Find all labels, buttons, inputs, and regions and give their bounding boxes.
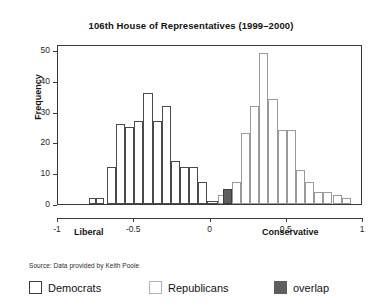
histogram-bar-republicans [333, 195, 342, 204]
histogram-bar-democrats [180, 167, 189, 204]
y-tick-label: 50 [41, 45, 50, 55]
legend-label-republicans: Republicans [168, 282, 229, 294]
legend-item-democrats: Democrats [29, 281, 101, 294]
x-tick-mark [133, 218, 134, 222]
bars-layer [58, 46, 361, 204]
histogram-bar-democrats [143, 93, 152, 204]
y-tick-label: 20 [41, 137, 50, 147]
histogram-bar-democrats [107, 167, 116, 204]
y-tick: 10 [0, 174, 57, 175]
histogram-bar-democrats [198, 182, 207, 204]
y-tick: 20 [0, 143, 57, 144]
x-tick-label: -1 [43, 224, 71, 234]
histogram-bar-democrats [189, 167, 198, 204]
axis-label-conservative: Conservative [262, 227, 319, 237]
plot-area [57, 45, 362, 205]
y-tick: 50 [0, 51, 57, 52]
legend-label-overlap: overlap [293, 282, 329, 294]
histogram-bar-republicans [314, 192, 323, 204]
y-tick-mark [53, 205, 57, 206]
histogram-bar-democrats [162, 106, 171, 204]
y-tick-label: 0 [45, 199, 50, 209]
x-tick-label: 1 [348, 224, 376, 234]
histogram-bar-democrats [171, 161, 180, 204]
x-tick-label: -0.5 [119, 224, 147, 234]
x-tick-mark [286, 218, 287, 222]
histogram-bar-republicans [232, 182, 241, 204]
histogram-bar-republicans [323, 192, 332, 204]
x-tick-label: 0 [196, 224, 224, 234]
histogram-bar-democrats [89, 198, 97, 204]
histogram-bar-democrats [116, 124, 125, 204]
histogram-bar-republicans [305, 182, 314, 204]
chart-legend: Democrats Republicans overlap [29, 281, 369, 301]
histogram-bar-republicans [296, 170, 305, 204]
histogram-bar-democrats [125, 127, 134, 204]
legend-item-republicans: Republicans [149, 281, 229, 294]
y-tick: 30 [0, 113, 57, 114]
legend-item-overlap: overlap [274, 281, 329, 294]
x-tick-mark [210, 218, 211, 222]
histogram-bar-republicans [259, 53, 268, 204]
histogram-bar-democrats [207, 201, 218, 204]
histogram-bar-democrats [96, 198, 104, 204]
axis-label-liberal: Liberal [74, 227, 104, 237]
chart-title: 106th House of Representatives (1999–200… [0, 20, 382, 31]
histogram-bar-overlap [223, 189, 232, 204]
legend-swatch-democrats [29, 281, 42, 294]
legend-swatch-republicans [149, 281, 162, 294]
legend-label-democrats: Democrats [48, 282, 101, 294]
histogram-bar-republicans [342, 198, 351, 204]
histogram-bar-democrats [134, 121, 143, 204]
y-tick-label: 10 [41, 168, 50, 178]
histogram-bar-republicans [268, 99, 277, 204]
histogram-bar-democrats [153, 121, 162, 204]
histogram-bar-republicans [278, 130, 287, 204]
y-tick: 0 [0, 205, 57, 206]
histogram-bar-republicans [287, 130, 296, 204]
y-tick: 40 [0, 82, 57, 83]
legend-swatch-overlap [274, 281, 287, 294]
y-tick-label: 30 [41, 107, 50, 117]
histogram-bar-republicans [241, 133, 250, 204]
x-tick-mark [362, 218, 363, 222]
histogram-figure: 106th House of Representatives (1999–200… [0, 0, 382, 306]
y-axis-label: Frequency [33, 57, 43, 137]
y-tick-label: 40 [41, 76, 50, 86]
x-tick-mark [57, 218, 58, 222]
source-note: Source: Data provided by Keith Poole [29, 262, 139, 269]
histogram-bar-republicans [250, 106, 259, 204]
